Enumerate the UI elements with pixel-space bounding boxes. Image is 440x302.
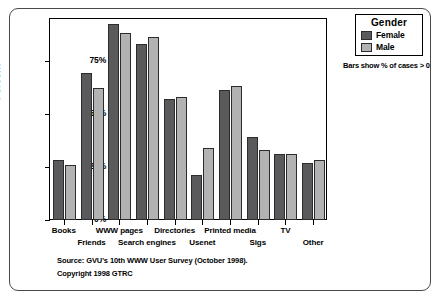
chart-figure: Percent 0%25%50%75% BooksFriendsWWW page…	[0, 0, 440, 302]
bar-male[interactable]	[259, 150, 270, 220]
x-tick-mark	[202, 220, 203, 225]
bar-female[interactable]	[108, 24, 119, 220]
bar-male[interactable]	[314, 160, 325, 220]
bar-male[interactable]	[65, 165, 76, 220]
bar-group	[219, 18, 243, 220]
bar-male[interactable]	[176, 97, 187, 220]
bar-male[interactable]	[120, 33, 131, 220]
bar-group	[53, 18, 77, 220]
bar-male[interactable]	[286, 154, 297, 220]
x-label-sigs: Sigs	[250, 238, 267, 247]
x-tick-mark	[119, 220, 120, 225]
bar-group	[302, 18, 326, 220]
bar-female[interactable]	[274, 154, 285, 220]
bar-group	[274, 18, 298, 220]
bar-group	[108, 18, 132, 220]
x-label-printed-media: Printed media	[204, 226, 256, 235]
bar-female[interactable]	[219, 90, 230, 220]
legend: Gender Female Male	[355, 14, 423, 56]
x-label-other: Other	[303, 238, 324, 247]
x-tick-mark	[313, 220, 314, 225]
legend-item-female[interactable]: Female	[361, 31, 405, 40]
x-tick-mark	[147, 220, 148, 225]
bar-male[interactable]	[231, 86, 242, 220]
legend-label-female: Female	[376, 31, 405, 40]
x-label-directories: Directories	[154, 226, 195, 235]
x-label-friends: Friends	[77, 238, 105, 247]
x-tick-mark	[175, 220, 176, 225]
bar-male[interactable]	[93, 88, 104, 220]
legend-swatch-male	[361, 43, 372, 52]
x-label-usenet: Usenet	[189, 238, 215, 247]
bar-male[interactable]	[203, 148, 214, 220]
x-tick-mark	[258, 220, 259, 225]
bar-series-container	[50, 18, 327, 220]
source-note: Source: GVU's 10th WWW User Survey (Octo…	[57, 256, 248, 265]
x-label-search-engines: Search engines	[118, 238, 176, 247]
bar-female[interactable]	[302, 163, 313, 220]
legend-note: Bars show % of cases > 0	[343, 61, 438, 70]
bar-female[interactable]	[191, 175, 202, 220]
x-label-books: Books	[52, 226, 76, 235]
copyright-note: Copyright 1998 GTRC	[57, 269, 133, 278]
x-label-tv: TV	[280, 226, 290, 235]
x-label-www-pages: WWW pages	[96, 226, 143, 235]
bar-male[interactable]	[148, 37, 159, 220]
bar-group	[247, 18, 271, 220]
y-axis-title: Percent	[0, 64, 2, 100]
bar-female[interactable]	[247, 137, 258, 220]
bar-group	[191, 18, 215, 220]
bar-female[interactable]	[136, 44, 147, 220]
bar-group	[81, 18, 105, 220]
y-tick-mark	[45, 220, 50, 221]
bar-female[interactable]	[81, 73, 92, 220]
bar-group	[164, 18, 188, 220]
bar-female[interactable]	[164, 99, 175, 220]
bar-group	[136, 18, 160, 220]
legend-swatch-female	[361, 31, 372, 40]
x-tick-mark	[285, 220, 286, 225]
legend-title: Gender	[356, 17, 422, 28]
legend-item-male[interactable]: Male	[361, 43, 395, 52]
x-tick-mark	[92, 220, 93, 225]
x-tick-mark	[230, 220, 231, 225]
legend-label-male: Male	[376, 43, 395, 52]
bar-female[interactable]	[53, 160, 64, 220]
x-tick-mark	[64, 220, 65, 225]
